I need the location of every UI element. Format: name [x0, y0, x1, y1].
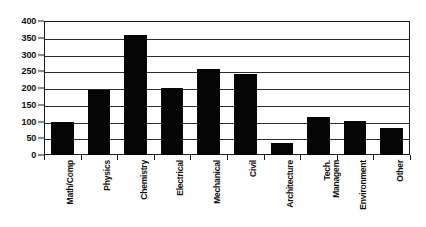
x-tick-label: Electrical — [176, 160, 185, 227]
y-tick-label: 250 — [22, 66, 36, 76]
x-tick-label-line: Other — [395, 160, 405, 182]
bar — [161, 88, 184, 155]
x-tick-label-line: Mechanical — [212, 160, 222, 204]
x-tick-label-line: Chemistry — [139, 160, 149, 200]
bar — [344, 121, 367, 156]
y-tick-label: 350 — [22, 33, 36, 43]
y-tick-label: 200 — [22, 83, 36, 93]
x-tick-label-line: Managem — [332, 160, 341, 227]
y-tick-label: 0 — [31, 150, 36, 160]
bar — [271, 143, 294, 155]
bar — [234, 74, 257, 155]
bar — [380, 128, 403, 155]
x-axis-labels: Math/CompPhysicsChemistryElectricalMecha… — [44, 160, 410, 227]
x-tick-label-line: Environment — [358, 160, 368, 210]
y-tick-label: 300 — [22, 50, 36, 60]
x-tick-label: Chemistry — [140, 160, 149, 227]
x-tick-label: Tech.Managem — [323, 160, 341, 227]
x-tick-label: Architecture — [286, 160, 295, 227]
bars-layer — [44, 21, 410, 155]
x-tick-label-line: Civil — [248, 160, 258, 177]
y-axis: 050100150200250300350400 — [0, 0, 44, 156]
x-tick-label-line: Electrical — [175, 160, 185, 196]
bar — [88, 90, 111, 155]
y-tick-label: 150 — [22, 100, 36, 110]
bar — [197, 69, 220, 155]
bar — [307, 117, 330, 155]
y-tick-label: 100 — [22, 117, 36, 127]
bar — [124, 35, 147, 155]
x-tick-mark — [410, 155, 411, 160]
y-tick-label: 400 — [22, 16, 36, 26]
x-tick-label: Mechanical — [213, 160, 222, 227]
bar-chart: 050100150200250300350400 Math/CompPhysic… — [0, 0, 426, 227]
x-tick-label-line: Tech. — [322, 160, 332, 181]
y-tick-label: 50 — [26, 133, 36, 143]
x-tick-label: Physics — [103, 160, 112, 227]
x-tick-label-line: Math/Comp — [65, 160, 75, 204]
bar — [51, 122, 74, 156]
x-tick-label: Environment — [359, 160, 368, 227]
x-tick-label: Other — [396, 160, 405, 227]
x-tick-label: Civil — [249, 160, 258, 227]
x-tick-label-line: Physics — [102, 160, 112, 191]
x-tick-label-line: Architecture — [285, 160, 295, 208]
x-tick-label: Math/Comp — [66, 160, 75, 227]
